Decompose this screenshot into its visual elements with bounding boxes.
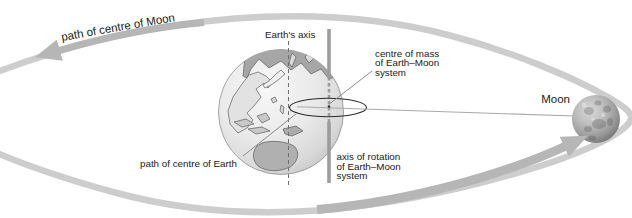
diagram-canvas: path of centre of Moon Earth's axis cent…: [0, 0, 632, 218]
barycentre-dot: [328, 105, 331, 108]
moon-sphere: [572, 95, 620, 143]
earth-moon-system-diagram: path of centre of Moon Earth's axis cent…: [0, 0, 632, 218]
centre-of-mass-label-line3: system: [375, 67, 406, 78]
earth-axis-label: Earth's axis: [265, 29, 315, 40]
centre-of-mass-label: centre of mass of Earth–Moon system: [375, 48, 439, 78]
rotation-axis-label-line3: system: [337, 170, 368, 181]
rotation-axis-label: axis of rotation of Earth–Moon system: [337, 151, 401, 181]
continent-australia: [253, 141, 297, 170]
moon-label: Moon: [541, 93, 570, 105]
earth-path-label: path of centre of Earth: [140, 158, 237, 169]
